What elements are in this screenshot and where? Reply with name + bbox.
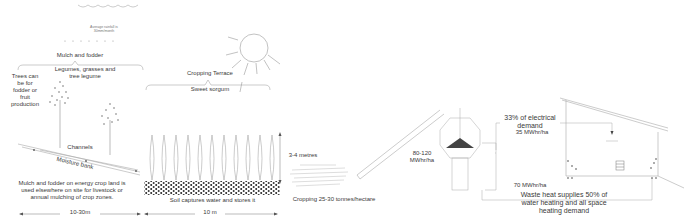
- mulch-fodder-title: Mulch and fodder: [55, 52, 105, 59]
- sorghum-plants-icon: [150, 135, 274, 180]
- waste-heat-label: Waste heat supplies 50% of water heating…: [515, 191, 613, 215]
- width-label-right: 10 m: [195, 209, 225, 216]
- electrical-value: 35 MWhr/ha: [510, 129, 554, 136]
- rainfall-label: Average rainfall is 30mm/month: [86, 25, 122, 33]
- house-icon: [560, 98, 684, 188]
- soil-label: Soil captures water and stores it: [150, 197, 275, 204]
- generator-icon: [440, 108, 480, 190]
- width-label-left: 10-30m: [60, 209, 100, 216]
- turbine-icon: [446, 138, 474, 148]
- conveyor-icon: [357, 110, 444, 179]
- soil-pattern: [144, 181, 280, 195]
- output-label: 80-120 MWhr/ha: [407, 150, 437, 164]
- cloud-icon: [78, 5, 138, 7]
- height-label: 3-4 metres: [278, 152, 328, 159]
- yield-label: Cropping 25-30 tonnes/hectare: [284, 196, 384, 203]
- radiator-icon: [616, 161, 624, 170]
- rain-drops-icon: [64, 40, 113, 41]
- arrow-down-icon: [611, 131, 614, 135]
- legumes-label: Legumes, grasses and tree legume: [50, 66, 120, 80]
- cropping-terrace-title: Cropping Terrace: [180, 70, 240, 77]
- tree-icon: [101, 103, 118, 155]
- sun-icon: [226, 34, 280, 92]
- trees-label: Trees can be for fodder or fruit product…: [8, 73, 42, 108]
- sweet-sorgum-label: Sweet sorgum: [180, 86, 240, 93]
- channels-label: Channels: [65, 144, 95, 151]
- heat-value: 70 MWhr/ha: [508, 182, 552, 189]
- mulch-note: Mulch and fodder on energy crop land is …: [12, 180, 132, 201]
- electrical-demand-label: 33% of electrical demand: [500, 114, 560, 130]
- harvest-pile-icon: [290, 165, 348, 186]
- tree-icon: [49, 81, 68, 148]
